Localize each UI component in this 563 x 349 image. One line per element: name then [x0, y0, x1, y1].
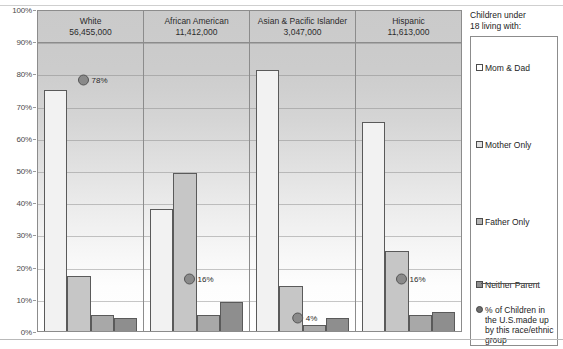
top-rule: [0, 5, 563, 6]
marker-dot-icon: [396, 274, 407, 285]
chart-root: 100%90%80%70%60%50%40%30%20%10%0% White5…: [0, 0, 563, 349]
percent-marker: 78%: [78, 74, 108, 85]
y-axis-tick-mark: [33, 235, 36, 236]
y-axis-tick-label: 90%: [17, 38, 32, 47]
bar-father-only: [91, 315, 114, 331]
bar-group: 4%: [250, 11, 356, 331]
legend-title: Children under 18 living with:: [470, 10, 558, 32]
y-axis-tick-mark: [33, 10, 36, 11]
y-axis-tick-label: 80%: [17, 70, 32, 79]
percent-marker: 4%: [292, 313, 318, 324]
y-axis-tick-label: 0%: [21, 328, 32, 337]
bar-mother-only: [279, 286, 302, 331]
legend-item-mom-dad: Mom & Dad: [476, 63, 554, 73]
marker-label: 4%: [306, 314, 318, 323]
legend-item-label: Mom & Dad: [485, 63, 530, 73]
y-axis-tick-label: 40%: [17, 199, 32, 208]
legend-item-neither-parent: Neither Parent: [476, 280, 554, 290]
bar-group: 16%: [144, 11, 250, 331]
y-axis-tick-label: 30%: [17, 231, 32, 240]
y-axis-tick-label: 60%: [17, 134, 32, 143]
bar-mother-only: [67, 276, 90, 331]
y-axis-tick-mark: [33, 171, 36, 172]
plot-area: White56,455,000African American11,412,00…: [37, 10, 462, 332]
bar-groups: 78%16%4%16%: [38, 11, 461, 331]
y-axis-tick-mark: [33, 74, 36, 75]
bar-neither-parent: [114, 318, 137, 331]
legend-title-line1: Children under: [470, 10, 558, 21]
y-axis-tick-mark: [33, 332, 36, 333]
y-axis-tick-mark: [33, 107, 36, 108]
marker-label: 78%: [92, 75, 108, 84]
bar-mom-dad: [44, 90, 67, 332]
bars-container: [256, 11, 348, 331]
bar-neither-parent: [432, 312, 455, 331]
y-axis-tick-mark: [33, 268, 36, 269]
bar-mother-only: [385, 251, 408, 332]
percent-marker: 16%: [184, 274, 214, 285]
legend-item-father-only: Father Only: [476, 217, 554, 227]
bar-father-only: [197, 315, 220, 331]
y-axis-tick-label: 10%: [17, 295, 32, 304]
y-axis-tick-label: 70%: [17, 102, 32, 111]
legend-swatch-icon: [476, 218, 483, 225]
marker-dot-icon: [476, 306, 483, 313]
y-axis-tick-mark: [33, 42, 36, 43]
legend-divider: [481, 283, 539, 284]
marker-dot-icon: [184, 274, 195, 285]
legend-item-mother-only: Mother Only: [476, 140, 554, 150]
bottom-rule: [0, 339, 563, 340]
bar-mom-dad: [256, 70, 279, 331]
y-axis: 100%90%80%70%60%50%40%30%20%10%0%: [0, 10, 36, 332]
bar-mother-only: [173, 173, 196, 331]
marker-dot-icon: [78, 74, 89, 85]
legend-swatch-icon: [476, 141, 483, 148]
y-axis-tick-label: 50%: [17, 167, 32, 176]
legend-item-label: Neither Parent: [485, 280, 540, 290]
legend-box: Mom & DadMother OnlyFather OnlyNeither P…: [470, 36, 558, 346]
marker-label: 16%: [198, 275, 214, 284]
marker-dot-icon: [292, 313, 303, 324]
legend: Children under 18 living with: Mom & Dad…: [470, 10, 558, 342]
legend-item-label: Father Only: [485, 217, 529, 227]
y-axis-tick-mark: [33, 203, 36, 204]
y-axis-tick-mark: [33, 139, 36, 140]
y-axis-tick-label: 100%: [12, 6, 32, 15]
bar-mom-dad: [150, 209, 173, 331]
legend-title-line2: 18 living with:: [470, 21, 558, 32]
bar-father-only: [409, 315, 432, 331]
bar-mom-dad: [362, 122, 385, 331]
y-axis-tick-label: 20%: [17, 263, 32, 272]
legend-item-label: Mother Only: [485, 140, 531, 150]
bar-group: 78%: [38, 11, 144, 331]
bar-group: 16%: [356, 11, 461, 331]
y-axis-tick-mark: [33, 300, 36, 301]
percent-marker: 16%: [396, 274, 426, 285]
legend-swatch-icon: [476, 64, 483, 71]
bar-father-only: [303, 325, 326, 331]
bar-neither-parent: [220, 302, 243, 331]
bar-neither-parent: [326, 318, 349, 331]
bars-container: [44, 11, 136, 331]
marker-label: 16%: [410, 275, 426, 284]
